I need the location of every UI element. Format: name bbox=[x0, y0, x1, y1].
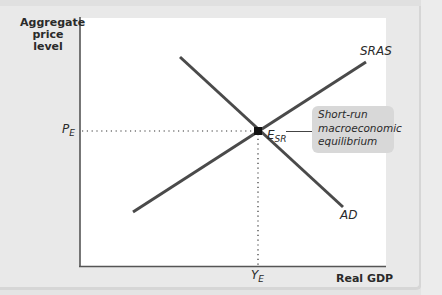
callout-line-1: Short-run bbox=[318, 108, 402, 122]
x-axis-label: Real GDP bbox=[336, 272, 393, 285]
pe-tick-label: PE bbox=[62, 122, 75, 136]
esr-sub: SR bbox=[275, 134, 287, 144]
ye-tick-label: YE bbox=[251, 268, 264, 282]
ad-label: AD bbox=[340, 208, 357, 222]
sras-label: SRAS bbox=[360, 44, 392, 58]
callout-line-3: equilibrium bbox=[318, 135, 402, 149]
y-axis-label-line-3: level bbox=[20, 41, 76, 53]
callout-text: Short-run macroeconomic equilibrium bbox=[318, 108, 402, 149]
pe-sub: E bbox=[69, 128, 75, 138]
esr-main: E bbox=[267, 128, 275, 142]
y-axis-label: Aggregate price level bbox=[20, 17, 76, 53]
equilibrium-point bbox=[254, 127, 262, 135]
ye-sub: E bbox=[258, 274, 264, 284]
callout-line-2: macroeconomic bbox=[318, 122, 402, 136]
esr-label: ESR bbox=[267, 128, 287, 142]
